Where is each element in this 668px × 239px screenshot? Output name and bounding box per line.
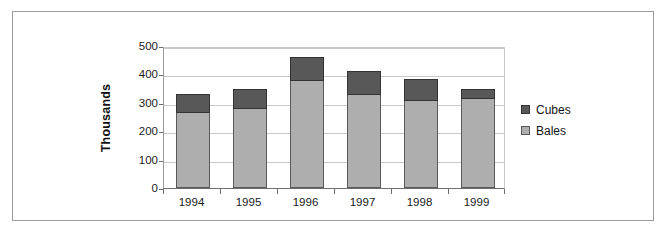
gridline <box>164 48 504 49</box>
bar-segment-cubes <box>404 79 438 102</box>
bar-segment-bales <box>461 99 495 188</box>
legend-swatch-icon <box>521 105 530 114</box>
bar-segment-bales <box>347 95 381 188</box>
x-axis-tick-mark <box>504 189 505 194</box>
bar-segment-cubes <box>290 57 324 80</box>
bar-column-1997 <box>347 71 381 188</box>
bar-segment-bales <box>290 81 324 188</box>
x-axis-tick-label-1995: 1995 <box>220 195 277 209</box>
x-axis-tick-label-1998: 1998 <box>391 195 448 209</box>
y-axis-title: Thousands <box>97 47 115 189</box>
x-axis-tick-label-1994: 1994 <box>163 195 220 209</box>
y-axis-tick-label: 400 <box>124 70 158 82</box>
y-axis-tick-label: 100 <box>124 155 158 167</box>
plot-area <box>163 47 505 189</box>
x-axis-tick-mark <box>163 189 164 194</box>
y-axis-tick-label: 200 <box>124 126 158 138</box>
chart-figure: Thousands 0100200300400500 1994199519961… <box>0 0 668 239</box>
x-axis-tick-mark <box>277 189 278 194</box>
y-axis-tick-label: 500 <box>124 41 158 53</box>
legend-label: Cubes <box>536 104 571 116</box>
legend-item-cubes[interactable]: Cubes <box>521 99 631 120</box>
bar-segment-bales <box>176 113 210 188</box>
x-axis-tick-marks <box>163 189 505 194</box>
x-axis-tick-label-1999: 1999 <box>448 195 505 209</box>
bar-segment-bales <box>233 109 267 188</box>
bar-segment-cubes <box>461 89 495 100</box>
x-axis-tick-mark <box>334 189 335 194</box>
gridline <box>164 76 504 77</box>
chart-legend: CubesBales <box>521 99 631 141</box>
bar-column-1994 <box>176 94 210 188</box>
gridline <box>164 162 504 163</box>
legend-swatch-icon <box>521 126 530 135</box>
x-axis-tick-mark <box>391 189 392 194</box>
bar-column-1995 <box>233 89 267 188</box>
y-axis-tick-labels: 0100200300400500 <box>122 47 158 189</box>
gridline <box>164 133 504 134</box>
bar-segment-cubes <box>233 89 267 110</box>
bar-column-1998 <box>404 79 438 188</box>
gridline <box>164 105 504 106</box>
bar-segment-bales <box>404 101 438 188</box>
x-axis-tick-mark <box>220 189 221 194</box>
y-axis-tick-label: 0 <box>124 183 158 195</box>
bar-column-1999 <box>461 89 495 188</box>
legend-item-bales[interactable]: Bales <box>521 120 631 141</box>
x-axis-tick-label-1996: 1996 <box>277 195 334 209</box>
bar-segment-cubes <box>347 71 381 95</box>
legend-label: Bales <box>536 125 566 137</box>
bar-segment-cubes <box>176 94 210 112</box>
x-axis-tick-labels: 199419951996199719981999 <box>163 195 505 211</box>
y-axis-tick-label: 300 <box>124 98 158 110</box>
x-axis-tick-mark <box>448 189 449 194</box>
x-axis-tick-label-1997: 1997 <box>334 195 391 209</box>
bar-column-1996 <box>290 57 324 188</box>
